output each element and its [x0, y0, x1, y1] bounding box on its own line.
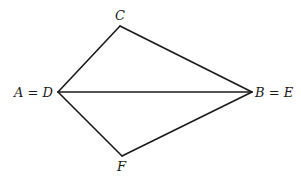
edge-ad-c [58, 26, 120, 92]
vertex-label-b-equals-e: B = E [254, 85, 294, 100]
vertex-label-f: F [116, 159, 127, 174]
geometry-diagram: C A = D B = E F [0, 0, 301, 187]
edge-c-be [120, 26, 252, 92]
vertex-label-c: C [115, 8, 125, 23]
edge-f-be [122, 92, 252, 156]
vertex-label-a-equals-d: A = D [13, 85, 54, 100]
edge-ad-f [58, 92, 122, 156]
